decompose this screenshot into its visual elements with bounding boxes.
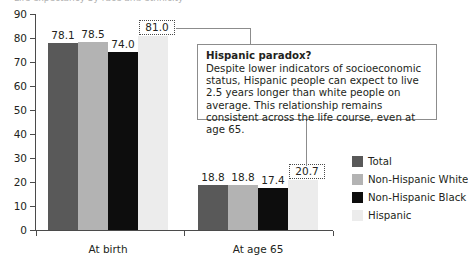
bar-non-hispanic-white-at-age-65 [228,185,258,230]
y-axis-tick [30,182,36,183]
y-axis-tick [30,14,36,15]
y-axis-tick-label: 40 [0,129,27,139]
bar-value-label: 78.1 [48,30,78,41]
legend-item[interactable]: Non-Hispanic White [352,174,454,185]
callout-connector-top-horizontal [176,28,251,29]
bar-hispanic-at-birth [138,36,168,230]
legend-item-label: Total [368,156,392,167]
bar-hispanic-at-age-65 [288,180,318,230]
y-axis-tick [30,38,36,39]
y-axis-tick [30,86,36,87]
legend-item[interactable]: Total [352,156,454,167]
callout-body: Despite lower indicators of socioeconomi… [206,63,429,136]
callout-connector-top-vertical [250,28,251,45]
y-axis-tick-label: 60 [0,81,27,91]
bar-non-hispanic-black-at-birth [108,52,138,230]
legend-item-label: Hispanic [368,210,411,221]
y-axis-tick [30,110,36,111]
y-axis-tick-label: 10 [0,201,27,211]
bar-total-at-age-65 [198,185,228,230]
legend-item-label: Non-Hispanic Black [368,192,466,203]
y-axis-tick [30,158,36,159]
y-axis-tick [30,206,36,207]
y-axis-tick [30,62,36,63]
x-axis-category-label: At birth [33,243,183,255]
callout-box: Hispanic paradox? Despite lower indicato… [197,44,437,120]
y-axis-tick [30,134,36,135]
y-axis-tick-label: 20 [0,177,27,187]
legend-swatch-icon [352,174,363,185]
bar-value-label: 17.4 [258,175,288,186]
bar-value-label: 78.5 [78,29,108,40]
y-axis-tick-label: 80 [0,33,27,43]
cut-off-title: Life expectancy by race and ethnicity [14,0,434,5]
bar-value-label-highlighted: 20.7 [289,164,325,179]
bar-value-label-highlighted: 81.0 [139,20,175,35]
bar-value-label: 74.0 [108,39,138,50]
bar-total-at-birth [48,43,78,230]
bar-value-label: 18.8 [228,172,258,183]
y-axis-tick-label: 30 [0,153,27,163]
y-axis-line [35,14,36,231]
y-axis-tick-label: 0 [0,225,27,235]
bar-non-hispanic-black-at-age-65 [258,188,288,230]
x-axis-tick [333,231,334,236]
legend-swatch-icon [352,156,363,167]
bar-value-label: 18.8 [198,172,228,183]
x-axis-category-label: At age 65 [183,243,333,255]
x-axis-tick [36,231,37,236]
y-axis-tick-label: 90 [0,9,27,19]
chart-legend: TotalNon-Hispanic WhiteNon-Hispanic Blac… [352,156,454,228]
legend-item-label: Non-Hispanic White [368,174,468,185]
legend-item[interactable]: Non-Hispanic Black [352,192,454,203]
legend-swatch-icon [352,210,363,221]
legend-item[interactable]: Hispanic [352,210,454,221]
bar-non-hispanic-white-at-birth [78,42,108,230]
callout-heading: Hispanic paradox? [206,50,429,62]
legend-swatch-icon [352,192,363,203]
y-axis-tick-label: 50 [0,105,27,115]
x-axis-tick [184,231,185,236]
y-axis-tick-label: 70 [0,57,27,67]
